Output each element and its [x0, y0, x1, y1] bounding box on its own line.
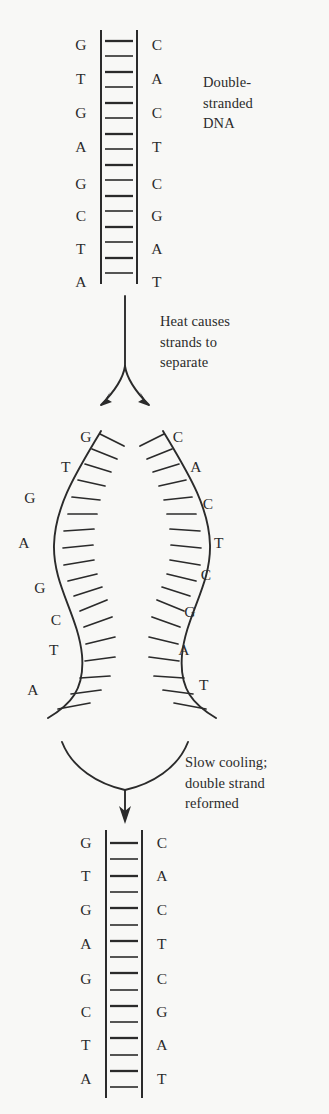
- top-right-base-7: T: [152, 274, 162, 290]
- sep-left-base-7: A: [27, 682, 39, 698]
- bottom-left-base-4: G: [80, 971, 92, 987]
- dna-denaturation-figure: G T G A G C T A C A C T C G A T G T G A …: [0, 0, 329, 1114]
- top-right-base-1: A: [151, 71, 163, 87]
- bottom-right-base-6: A: [156, 1037, 168, 1053]
- left-strand-base-ticks: [58, 434, 124, 709]
- top-right-base-5: G: [151, 208, 163, 224]
- sep-left-base-0: G: [80, 429, 92, 445]
- bottom-right-base-4: C: [157, 971, 168, 987]
- merge-arrow-branch-right: [125, 742, 188, 790]
- sep-left-base-2: G: [24, 490, 36, 506]
- bottom-left-base-3: A: [80, 936, 92, 952]
- top-left-base-3: A: [75, 139, 87, 155]
- merge-arrow-branch-left: [62, 742, 125, 790]
- bottom-right-base-7: T: [157, 1071, 167, 1087]
- top-right-base-0: C: [152, 37, 163, 53]
- bottom-duplex-ladder: [106, 830, 142, 1098]
- bottom-left-base-7: A: [80, 1071, 92, 1087]
- top-left-base-4: G: [75, 176, 87, 192]
- top-right-base-3: T: [152, 139, 162, 155]
- sep-right-base-7: T: [199, 677, 209, 693]
- right-strand-base-ticks: [140, 434, 206, 709]
- cooling-merge-arrow: [62, 742, 188, 824]
- heat-split-arrow: [101, 296, 149, 406]
- sep-right-base-0: C: [173, 429, 184, 445]
- top-left-base-2: G: [75, 105, 87, 121]
- top-left-base-6: T: [76, 241, 86, 257]
- bottom-left-base-5: C: [81, 1004, 92, 1020]
- caption-slow-cooling: Slow cooling; double strand reformed: [185, 752, 267, 814]
- sep-right-base-5: G: [184, 604, 196, 620]
- caption-heat-separates: Heat causes strands to separate: [160, 311, 230, 373]
- bottom-left-base-0: G: [80, 835, 92, 851]
- bottom-left-base-2: G: [80, 902, 92, 918]
- split-arrow-branch-right: [125, 366, 149, 405]
- sep-left-base-3: A: [18, 535, 30, 551]
- sep-left-base-6: T: [49, 642, 59, 658]
- sep-right-base-3: T: [214, 535, 224, 551]
- sep-right-base-1: A: [190, 459, 202, 475]
- sep-left-base-1: T: [61, 459, 71, 475]
- bottom-left-base-1: T: [81, 868, 91, 884]
- bottom-rungs: [110, 843, 138, 1087]
- top-left-base-1: T: [76, 71, 86, 87]
- sep-left-base-5: C: [51, 612, 62, 628]
- top-right-base-6: A: [151, 241, 163, 257]
- bottom-right-base-2: C: [157, 902, 168, 918]
- bottom-right-base-0: C: [157, 835, 168, 851]
- top-left-base-5: C: [76, 208, 87, 224]
- sep-right-base-4: C: [201, 567, 212, 583]
- top-left-base-0: G: [75, 37, 87, 53]
- bottom-left-base-6: T: [81, 1037, 91, 1053]
- sep-right-base-2: C: [203, 496, 214, 512]
- sep-left-base-4: G: [34, 580, 46, 596]
- top-rungs: [105, 41, 133, 273]
- top-left-base-7: A: [75, 274, 87, 290]
- split-arrow-branch-left: [101, 366, 125, 405]
- caption-double-stranded-dna: Double- stranded DNA: [203, 72, 253, 134]
- bottom-right-base-5: G: [156, 1004, 168, 1020]
- sep-right-base-6: A: [178, 642, 190, 658]
- bottom-right-base-3: T: [157, 936, 167, 952]
- bottom-right-base-1: A: [156, 868, 168, 884]
- top-duplex-ladder: [101, 30, 137, 284]
- top-right-base-4: C: [152, 176, 163, 192]
- top-right-base-2: C: [152, 105, 163, 121]
